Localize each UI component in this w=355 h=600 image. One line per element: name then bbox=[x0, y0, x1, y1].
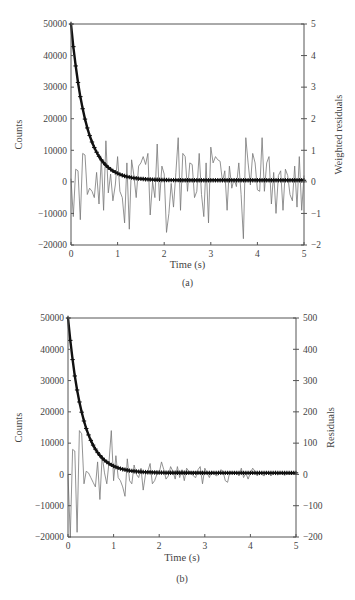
y-left-tick-label: 50000 bbox=[43, 19, 67, 29]
chart-b-svg: 012345−20000−100000100002000030000400005… bbox=[0, 295, 355, 600]
y-right-tick-label: 4 bbox=[311, 51, 316, 61]
y-left-tick-label: 0 bbox=[62, 177, 67, 187]
y-left-tick-label: 40000 bbox=[43, 51, 67, 61]
y-left-tick-label: 40000 bbox=[40, 345, 64, 355]
decay-markers bbox=[69, 22, 306, 183]
y-left-tick-label: 10000 bbox=[43, 146, 67, 156]
y-left-tick-label: 20000 bbox=[40, 407, 64, 417]
y-right-tick-label: −200 bbox=[303, 532, 323, 542]
x-tick-label: 0 bbox=[69, 249, 74, 259]
y-right-tick-label: 3 bbox=[311, 82, 316, 92]
x-tick-label: 2 bbox=[157, 541, 162, 551]
y-right-tick-label: 200 bbox=[303, 407, 318, 417]
y-left-tick-label: −20000 bbox=[38, 240, 67, 250]
x-tick-label: 3 bbox=[202, 541, 207, 551]
y-right-tick-label: 100 bbox=[303, 438, 318, 448]
y-left-tick-label: −20000 bbox=[35, 532, 64, 542]
x-tick-label: 1 bbox=[111, 541, 116, 551]
plot-frame bbox=[71, 24, 304, 245]
y-left-tick-label: 10000 bbox=[40, 438, 64, 448]
y-left-tick-label: −10000 bbox=[38, 209, 67, 219]
y-right-tick-label: 0 bbox=[303, 470, 308, 480]
residuals-line bbox=[68, 431, 296, 537]
x-tick-label: 4 bbox=[248, 541, 253, 551]
y-right-tick-label: 300 bbox=[303, 376, 318, 386]
chart-panel-b: 012345−20000−100000100002000030000400005… bbox=[0, 295, 355, 600]
y-left-tick-label: −10000 bbox=[35, 501, 64, 511]
residuals-line bbox=[71, 138, 304, 239]
x-tick-label: 1 bbox=[115, 249, 120, 259]
panel-caption: (b) bbox=[176, 573, 188, 585]
y-left-tick-label: 50000 bbox=[40, 313, 64, 323]
x-tick-label: 2 bbox=[162, 249, 167, 259]
y-right-tick-label: −2 bbox=[311, 240, 321, 250]
panel-caption: (a) bbox=[182, 277, 193, 289]
x-tick-label: 5 bbox=[294, 541, 299, 551]
y-right-tick-label: 2 bbox=[311, 114, 316, 124]
y-right-tick-label: −1 bbox=[311, 209, 321, 219]
x-tick-label: 3 bbox=[208, 249, 213, 259]
y-right-tick-label: 0 bbox=[311, 177, 316, 187]
y-right-tick-label: 500 bbox=[303, 313, 318, 323]
y-left-tick-label: 0 bbox=[59, 470, 64, 480]
decay-markers bbox=[66, 316, 298, 475]
y-left-axis-title: Counts bbox=[13, 413, 24, 443]
y-left-axis-title: Counts bbox=[13, 120, 24, 150]
chart-panel-a: 012345−20000−100000100002000030000400005… bbox=[0, 0, 355, 300]
y-right-tick-label: 5 bbox=[311, 19, 316, 29]
x-tick-label: 4 bbox=[255, 249, 260, 259]
y-right-tick-label: −100 bbox=[303, 501, 323, 511]
y-left-tick-label: 30000 bbox=[40, 376, 64, 386]
decay-curve bbox=[68, 318, 296, 473]
plot-frame bbox=[68, 318, 296, 537]
x-axis-title: Time (s) bbox=[164, 552, 200, 564]
y-right-tick-label: 400 bbox=[303, 345, 318, 355]
y-right-axis-title: Residuals bbox=[325, 407, 336, 448]
y-right-axis-title: Weighted residuals bbox=[333, 95, 344, 175]
x-tick-label: 5 bbox=[302, 249, 307, 259]
x-axis-title: Time (s) bbox=[170, 259, 206, 271]
y-right-tick-label: 1 bbox=[311, 146, 316, 156]
x-tick-label: 0 bbox=[66, 541, 71, 551]
chart-a-svg: 012345−20000−100000100002000030000400005… bbox=[0, 0, 355, 300]
y-left-tick-label: 20000 bbox=[43, 114, 67, 124]
y-left-tick-label: 30000 bbox=[43, 82, 67, 92]
